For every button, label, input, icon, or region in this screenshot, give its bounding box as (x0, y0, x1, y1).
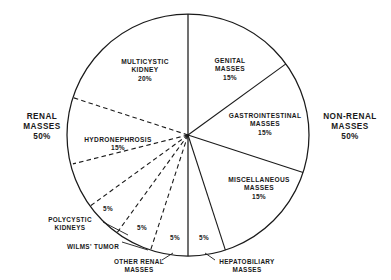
slice-label-other-renal-masses: OTHER RENAL MASSES (103, 258, 175, 274)
slice-label-multicystic-line1: MULTICYSTIC (95, 58, 195, 66)
slice-label-other-renal-line2: MASSES (103, 266, 175, 274)
slice-label-other-renal-line1: OTHER RENAL (103, 258, 175, 266)
percent-callout-polycystic: 5% (98, 205, 118, 213)
slice-label-gastrointestinal-line1: GASTROINTESTINAL (213, 112, 317, 120)
slice-label-polycystic-line1: POLYCYSTIC (37, 216, 103, 224)
slice-label-miscellaneous-line2: MASSES (211, 184, 307, 192)
slice-label-polycystic-kidneys: POLYCYSTIC KIDNEYS (37, 216, 103, 232)
slice-label-miscellaneous-line1: MISCELLANEOUS (211, 176, 307, 184)
slice-label-hepatobiliary-masses: HEPATOBILIARY MASSES (205, 258, 289, 274)
slice-label-hepatobiliary-line1: HEPATOBILIARY (205, 258, 289, 266)
slice-label-multicystic-line2: KIDNEY (95, 66, 195, 74)
slice-label-multicystic-kidney: MULTICYSTIC KIDNEY 20% (95, 58, 195, 83)
group-label-non-renal-percent: 50% (310, 132, 390, 142)
slice-label-miscellaneous-percent: 15% (211, 193, 307, 201)
group-label-renal-line1: RENAL (2, 112, 82, 122)
slice-label-wilms-tumor: WILMS' TUMOR (58, 243, 128, 251)
slice-label-genital-line2: MASSES (196, 65, 264, 73)
slice-label-polycystic-line2: KIDNEYS (37, 224, 103, 232)
slice-label-hydronephrosis: HYDRONEPHROSIS 15% (66, 136, 170, 153)
slice-label-gastrointestinal-masses: GASTROINTESTINAL MASSES 15% (213, 112, 317, 137)
slice-label-gastrointestinal-line2: MASSES (213, 120, 317, 128)
percent-callout-wilms: 5% (132, 224, 152, 232)
slice-label-miscellaneous-masses: MISCELLANEOUS MASSES 15% (211, 176, 307, 201)
group-label-renal-line2: MASSES (2, 122, 82, 132)
slice-label-hydronephrosis-percent: 15% (66, 144, 170, 152)
group-label-non-renal-line1: NON-RENAL (310, 112, 390, 122)
slice-label-genital-percent: 15% (196, 74, 264, 82)
slice-label-multicystic-percent: 20% (95, 75, 195, 83)
slice-label-hydronephrosis-line1: HYDRONEPHROSIS (66, 136, 170, 144)
pie-chart-figure: RENAL MASSES 50% NON-RENAL MASSES 50% MU… (0, 0, 391, 280)
slice-label-gastrointestinal-percent: 15% (213, 129, 317, 137)
group-label-non-renal-masses: NON-RENAL MASSES 50% (310, 112, 390, 143)
slice-label-wilms-line1: WILMS' TUMOR (58, 243, 128, 251)
group-label-non-renal-line2: MASSES (310, 122, 390, 132)
percent-callout-other-renal: 5% (165, 234, 185, 242)
slice-label-hepatobiliary-line2: MASSES (205, 266, 289, 274)
slice-label-genital-line1: GENITAL (196, 57, 264, 65)
slice-label-genital-masses: GENITAL MASSES 15% (196, 57, 264, 82)
percent-callout-hepatobiliary: 5% (194, 234, 214, 242)
